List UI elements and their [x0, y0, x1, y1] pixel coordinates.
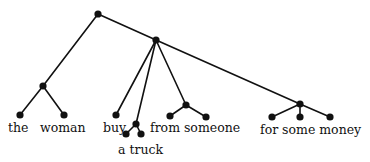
label-a-truck: a truck: [118, 142, 163, 157]
edge-vp-buy: [116, 40, 156, 115]
node-pp1: [182, 101, 189, 108]
label-the: the: [8, 120, 28, 135]
syntax-tree-diagram: the woman buy a truck from someone for s…: [0, 0, 370, 162]
node-np: [39, 82, 46, 89]
tree-labels: the woman buy a truck from someone for s…: [8, 120, 362, 157]
label-from-someone: from someone: [150, 120, 240, 135]
edge-root-np: [43, 14, 98, 86]
label-buy: buy: [103, 120, 127, 135]
node-root: [94, 10, 101, 17]
edge-np-the: [20, 86, 43, 115]
node-vp: [152, 36, 159, 43]
label-for-some-money: for some money: [260, 122, 362, 137]
edge-pp2-for: [272, 104, 300, 117]
node-some: [296, 113, 303, 120]
node-for: [268, 113, 275, 120]
node-buy: [112, 111, 119, 118]
node-money: [326, 113, 333, 120]
edge-vp-pp1: [156, 40, 186, 105]
tree-nodes: [16, 10, 333, 137]
node-obj: [132, 120, 139, 127]
edge-np-woman: [43, 86, 64, 115]
node-truck: [137, 130, 144, 137]
node-pp2: [296, 100, 303, 107]
node-from: [166, 112, 173, 119]
edge-vp-obj: [136, 40, 156, 124]
edge-pp2-money: [300, 104, 330, 117]
label-woman: woman: [40, 120, 86, 135]
node-woman: [60, 111, 67, 118]
node-the: [16, 111, 23, 118]
edge-root-vp: [98, 14, 156, 40]
edge-vp-pp2: [156, 40, 300, 104]
